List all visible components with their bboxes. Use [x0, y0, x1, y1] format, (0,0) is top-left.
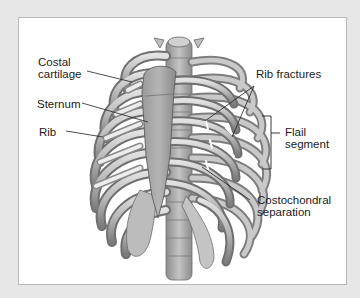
label-rib: Rib: [39, 126, 56, 138]
label-flail-segment-line1: Flail: [285, 126, 329, 138]
label-costal-cartilage-line2: cartilage: [38, 68, 81, 80]
label-rib-fractures: Rib fractures: [256, 68, 321, 80]
label-costochondral-separation: Costochondral separation: [257, 194, 331, 218]
label-sternum: Sternum: [37, 98, 80, 110]
label-flail-segment-line2: segment: [285, 138, 329, 150]
label-costal-cartilage-line1: Costal: [38, 56, 81, 68]
label-costochondral-line1: Costochondral: [257, 194, 331, 206]
label-costal-cartilage: Costal cartilage: [38, 56, 81, 80]
label-costochondral-line2: separation: [257, 206, 331, 218]
label-flail-segment: Flail segment: [285, 126, 329, 150]
